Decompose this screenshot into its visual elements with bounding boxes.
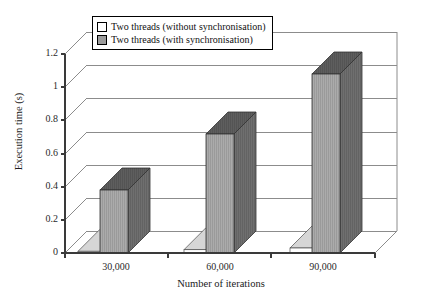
- y-tick-label-0-2: 0.2: [32, 213, 58, 224]
- y-axis-title: Execution time (s): [13, 72, 24, 192]
- bar-90000-with-sync: [312, 52, 362, 253]
- y-tick-label-0-8: 0.8: [32, 113, 58, 124]
- bar-60000-with-sync: [206, 112, 256, 253]
- y-tick-label-0: 0: [32, 246, 58, 257]
- white-swatch-icon: [97, 22, 107, 32]
- x-axis: [65, 253, 375, 258]
- y-tick-label-0-6: 0.6: [32, 147, 58, 158]
- legend-label-without-sync: Two threads (without synchronisation): [111, 21, 266, 32]
- y-axis: [61, 54, 65, 253]
- x-tick-label-90000: 90,000: [293, 261, 353, 272]
- y-tick-label-1-2: 1.2: [32, 47, 58, 58]
- x-tick-label-30000: 30,000: [86, 261, 146, 272]
- bar-chart-figure: 1.2 1 0.8 0.6 0.4 0.2 0 30,000 60,000 90…: [0, 0, 422, 304]
- legend-label-with-sync: Two threads (with synchronisation): [111, 34, 253, 45]
- legend-item-with-sync: Two threads (with synchronisation): [97, 33, 266, 46]
- y-tick-label-1: 1: [32, 80, 58, 91]
- y-tick-label-0-4: 0.4: [32, 180, 58, 191]
- x-tick-label-60000: 60,000: [190, 261, 250, 272]
- chart-legend: Two threads (without synchronisation) Tw…: [92, 16, 273, 50]
- x-axis-title: Number of iterations: [131, 278, 311, 289]
- legend-item-without-sync: Two threads (without synchronisation): [97, 20, 266, 33]
- grey-swatch-icon: [97, 35, 107, 45]
